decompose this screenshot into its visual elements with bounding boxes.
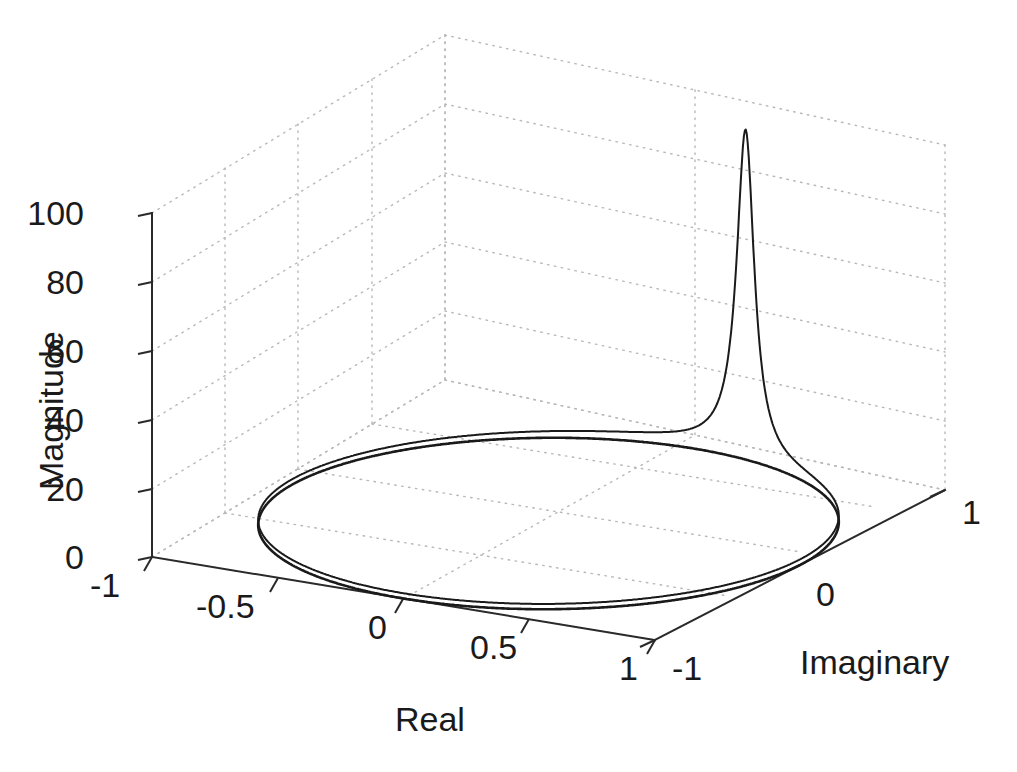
- grid-wall-right: [445, 35, 945, 490]
- series-unit-circle-base: [258, 438, 839, 609]
- series-magnitude-curve: [258, 130, 839, 604]
- figure-canvas: 100 80 60 40 20 0 Magnitude -1 -0.5 0 0.…: [0, 0, 1017, 772]
- z-tick-label-80: 80: [46, 265, 84, 299]
- z-axis-title: Magnitude: [34, 331, 68, 490]
- x-axis-title: Real: [395, 702, 465, 736]
- y-tick-label-0: 0: [816, 577, 835, 611]
- y-axis-title: Imaginary: [800, 645, 949, 679]
- x-tick-label-neg05: -0.5: [196, 589, 255, 623]
- y-tick-label-neg1: -1: [672, 651, 702, 685]
- x-tick-label-neg1: -1: [90, 568, 120, 602]
- x-tick-label-05: 0.5: [470, 630, 517, 664]
- z-tick-label-100: 100: [27, 196, 84, 230]
- y-tick-label-1: 1: [962, 495, 981, 529]
- grid-wall-left: [152, 35, 445, 557]
- z-axis-ticks: [138, 213, 152, 560]
- x-tick-label-0: 0: [368, 610, 387, 644]
- z-tick-label-0: 0: [65, 540, 84, 574]
- x-tick-label-1: 1: [619, 651, 638, 685]
